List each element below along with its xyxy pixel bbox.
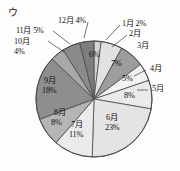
leader-line-jan <box>106 25 120 40</box>
label-jul-val: 11% <box>69 130 83 139</box>
label-sep: 9月 <box>44 76 56 85</box>
label-mar-val: 7% <box>111 59 122 68</box>
label-apr: 4月 <box>150 64 162 73</box>
leader-line-oct <box>48 41 64 52</box>
label-dec: 12月 4% <box>58 16 86 25</box>
pie-chart-figure: ウ 1月 2% 2月 3月 4月 5月 12月 4% 11月 5% 10月 4%… <box>0 0 180 171</box>
label-oct-val: 4% <box>14 47 25 56</box>
pie-slice-6月[interactable] <box>92 99 151 157</box>
label-aug-val: 8% <box>51 118 62 127</box>
leader-line-nov <box>53 31 70 44</box>
label-jun: 6月 <box>106 113 118 122</box>
label-sep-val: 18% <box>42 86 56 95</box>
label-jan: 1月 2% <box>122 19 146 28</box>
label-apr-val: 5% <box>122 74 133 83</box>
label-jul: 7月 <box>71 120 83 129</box>
label-nov: 11月 5% <box>16 26 44 35</box>
label-oct: 10月 <box>14 37 30 46</box>
label-feb: 2月 <box>129 29 141 38</box>
leader-line-feb <box>112 35 127 47</box>
label-feb-val: 6% <box>89 50 100 59</box>
label-aug: 8月 <box>54 108 66 117</box>
label-may-val: 8% <box>124 91 135 100</box>
label-jun-val: 23% <box>105 123 119 132</box>
label-mar: 3月 <box>137 41 149 50</box>
label-may: 5月 <box>152 84 164 93</box>
